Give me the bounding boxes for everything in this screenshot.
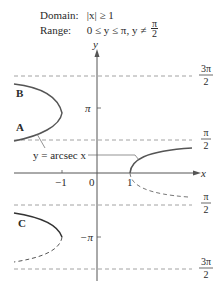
arcsec-graph: y x −1 0 1 π −π 3π 2 π 2 π 2 3π 2 B A C …: [0, 0, 220, 294]
tick-label-neg1: −1: [55, 176, 67, 188]
tick-label-pi: π: [85, 102, 91, 114]
tick-label-0: 0: [89, 176, 95, 188]
y-axis-label: y: [92, 38, 98, 50]
curve-label-c: C: [18, 217, 26, 229]
asym-label-neg-3pi-2-den: 2: [204, 269, 209, 280]
leader-line-a: [37, 134, 45, 148]
curve-right-dashed: [130, 173, 188, 197]
curve-label-b: B: [16, 87, 24, 99]
curve-label-a: A: [16, 121, 24, 133]
arcsec-annotation: y = arcsec x: [33, 149, 86, 161]
asym-label-pi-2-num: π: [203, 127, 208, 138]
asym-label-neg-pi-2-num: π: [203, 191, 208, 202]
asym-label-pi-2-den: 2: [204, 140, 209, 151]
leader-line-arcsec-diag: [135, 155, 139, 160]
asym-label-3pi-2-den: 2: [204, 76, 209, 87]
tick-label-neg-pi: −π: [80, 231, 93, 243]
curve-branch-c-dashed: [14, 237, 62, 262]
asym-label-neg-pi-2-den: 2: [204, 204, 209, 215]
tick-label-1: 1: [127, 176, 133, 188]
x-axis-label: x: [200, 167, 206, 179]
asym-label-neg-3pi-2-num: 3π: [201, 256, 211, 267]
asym-label-3pi-2-num: 3π: [201, 63, 211, 74]
y-axis-arrow-icon: [95, 49, 100, 57]
x-axis-arrow-icon: [193, 171, 201, 176]
curve-arcsec-principal: [130, 148, 192, 173]
